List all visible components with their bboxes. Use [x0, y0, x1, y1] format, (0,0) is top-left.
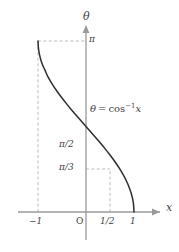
axes — [18, 30, 160, 240]
arccos-figure: θ x π π/2 π/3 −1 O 1/2 1 θ=cos−1x — [0, 0, 179, 252]
y-tick-label-pi-over-3: π/3 — [59, 163, 74, 172]
y-tick-label-pi-over-2: π/2 — [59, 140, 74, 149]
equation-function-name: cos — [108, 103, 125, 114]
x-tick-label-negative-one: −1 — [29, 217, 42, 226]
y-axis-arrowhead — [83, 25, 90, 33]
equation-annotation: θ=cos−1x — [90, 103, 141, 114]
x-axis-label: x — [166, 202, 172, 213]
x-tick-label-origin: O — [76, 217, 83, 226]
x-tick-label-one: 1 — [130, 217, 136, 226]
axis-arrowheads — [83, 25, 160, 215]
x-axis-arrowhead — [152, 209, 160, 216]
equation-argument: x — [136, 103, 142, 114]
guide-lines — [38, 41, 110, 212]
y-tick-label-pi: π — [89, 35, 95, 44]
x-tick-label-one-half: 1/2 — [100, 217, 114, 226]
y-axis-label: θ — [83, 11, 90, 22]
equation-equals-sign: = — [96, 103, 108, 114]
equation-exponent: −1 — [125, 102, 135, 110]
